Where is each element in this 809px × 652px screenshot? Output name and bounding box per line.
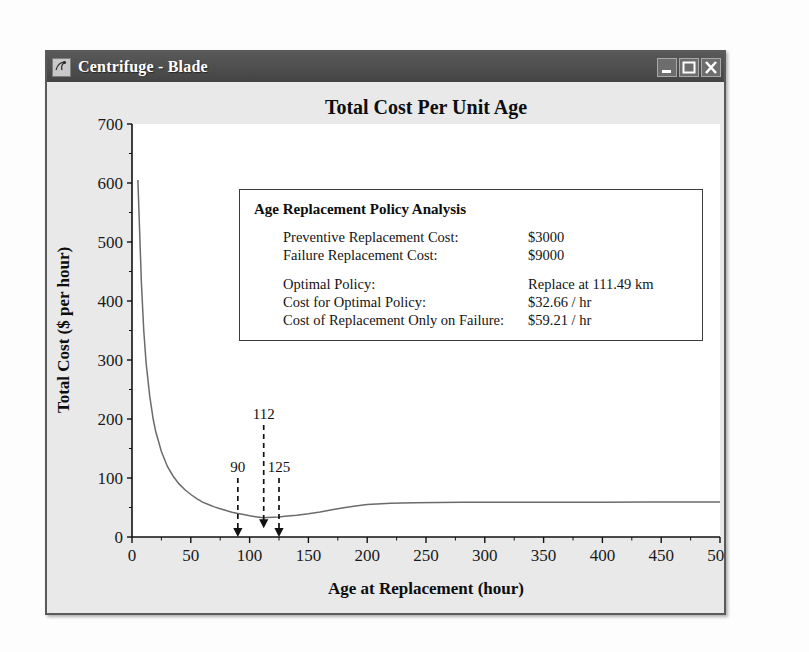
x-axis-title: Age at Replacement (hour) — [328, 579, 524, 598]
x-tick-label: 150 — [296, 546, 322, 565]
info-row-label: Cost for Optimal Policy: — [283, 294, 504, 312]
x-tick-label: 450 — [648, 546, 674, 565]
info-row-label: Optimal Policy: — [283, 276, 504, 294]
info-row: Optimal Policy:Replace at 111.49 km — [283, 276, 653, 294]
x-tick-label: 400 — [590, 546, 616, 565]
info-row-value: Replace at 111.49 km — [504, 276, 653, 294]
info-row-label: Failure Replacement Cost: — [283, 247, 504, 265]
annotation-label: 90 — [230, 459, 245, 475]
y-tick-label: 700 — [98, 115, 124, 134]
info-row-label: Cost of Replacement Only on Failure: — [283, 312, 504, 330]
chart-title: Total Cost Per Unit Age — [325, 96, 527, 119]
x-tick-label: 250 — [413, 546, 439, 565]
y-tick-label: 0 — [115, 528, 124, 547]
x-tick-label: 0 — [128, 546, 137, 565]
app-icon — [52, 58, 71, 77]
analysis-info-box: Age Replacement Policy Analysis Preventi… — [239, 189, 703, 341]
page-root: Centrifuge - Blade — [0, 0, 809, 652]
window-title: Centrifuge - Blade — [78, 58, 655, 76]
info-box-table: Preventive Replacement Cost:$3000Failure… — [283, 229, 653, 330]
info-row: Cost of Replacement Only on Failure:$59.… — [283, 312, 653, 330]
x-axis-ticks: 050100150200250300350400450500 — [128, 537, 724, 565]
info-box-heading: Age Replacement Policy Analysis — [254, 201, 702, 218]
info-row-label: Preventive Replacement Cost: — [283, 229, 504, 247]
info-row: Cost for Optimal Policy:$32.66 / hr — [283, 294, 653, 312]
x-tick-label: 300 — [472, 546, 498, 565]
minimize-button[interactable] — [657, 58, 677, 77]
y-tick-label: 200 — [98, 410, 124, 429]
info-row-value: $3000 — [504, 229, 653, 247]
title-bar[interactable]: Centrifuge - Blade — [47, 52, 724, 82]
info-row-spacer — [283, 265, 653, 276]
y-axis-ticks: 0100200300400500600700 — [98, 115, 133, 547]
x-tick-label: 350 — [531, 546, 557, 565]
y-tick-label: 300 — [98, 351, 124, 370]
x-tick-label: 200 — [354, 546, 380, 565]
chart-panel: Total Cost Per Unit Age 0100200300400500… — [47, 82, 724, 613]
application-window: Centrifuge - Blade — [45, 50, 726, 615]
y-tick-label: 600 — [98, 174, 124, 193]
info-row-value: $9000 — [504, 247, 653, 265]
annotation-label: 125 — [268, 459, 291, 475]
x-tick-label: 50 — [182, 546, 199, 565]
y-tick-label: 400 — [98, 292, 124, 311]
annotation-label: 112 — [253, 406, 275, 422]
info-row-value: $59.21 / hr — [504, 312, 653, 330]
y-tick-label: 100 — [98, 469, 124, 488]
x-tick-label: 500 — [707, 546, 724, 565]
info-row: Failure Replacement Cost:$9000 — [283, 247, 653, 265]
info-row: Preventive Replacement Cost:$3000 — [283, 229, 653, 247]
maximize-button[interactable] — [679, 58, 699, 77]
x-tick-label: 100 — [237, 546, 263, 565]
y-axis-title: Total Cost ($ per hour) — [54, 247, 73, 413]
info-row-value: $32.66 / hr — [504, 294, 653, 312]
y-tick-label: 500 — [98, 233, 124, 252]
info-row-spacer-cell — [283, 265, 653, 276]
cost-per-unit-age-chart: Total Cost Per Unit Age 0100200300400500… — [47, 82, 724, 613]
close-button[interactable] — [701, 58, 721, 77]
